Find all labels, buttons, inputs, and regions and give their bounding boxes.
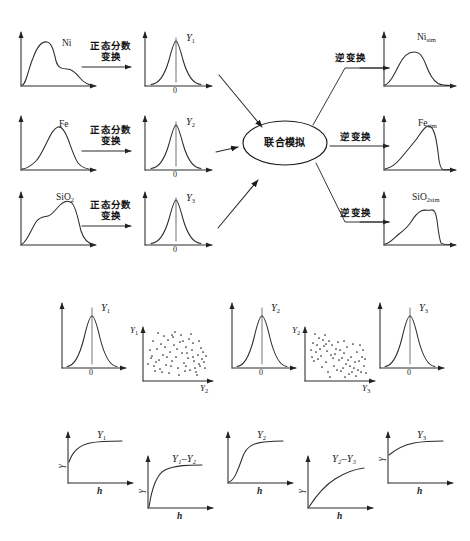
connector-node-to-inverse-1 (313, 68, 389, 125)
vario2-title-text: Y₁–Y₂ (172, 453, 196, 464)
vario2-title: Y₁–Y₂ (172, 453, 196, 464)
vario3-title: Y2 (257, 429, 266, 441)
origin-label-y2: 0 (173, 170, 177, 179)
mid-origin-y2: 0 (259, 368, 263, 377)
vario1-xlabel: h (97, 486, 102, 496)
scatter2-xlabel: Y3 (362, 383, 370, 394)
vario5-title-sub: 3 (423, 434, 426, 441)
mid-y1-sub: 1 (107, 307, 110, 314)
vario3-title-sub: 2 (263, 434, 266, 441)
mid-origin-y3: 0 (407, 368, 411, 377)
scatter2-xlabel-sub: 3 (367, 387, 370, 394)
fe-sim-sub: sim (428, 122, 437, 129)
sio2-sim-main: SiO (412, 192, 427, 202)
plot-y2-gaussian (145, 116, 212, 170)
scatter1-xlabel: Y2 (200, 383, 208, 394)
scatter-points-y1-y2 (147, 331, 207, 376)
scatter2-ylabel-sub: 2 (297, 329, 300, 336)
vario3-xlabel: h (257, 486, 262, 496)
forward-transform-3-line2: 变换 (101, 210, 122, 221)
vario5-xlabel: h (417, 486, 422, 496)
forward-transform-3-line1: 正态分数 (90, 199, 132, 210)
label-inverse-transform-3: 逆变换 (336, 207, 376, 218)
joint-simulation-label: 联合模拟 (259, 137, 311, 148)
forward-transform-line1: 正态分数 (90, 40, 132, 51)
y1-sub: 1 (192, 37, 195, 44)
forward-transform-line2: 变换 (101, 51, 122, 62)
arrow-y3-to-node (218, 180, 258, 228)
label-forward-transform-2: 正态分数 变换 (84, 124, 138, 146)
arrow-y2-to-node (216, 147, 238, 152)
mid-hist-y1 (62, 303, 126, 368)
label-forward-transform-3: 正态分数 变换 (84, 199, 138, 221)
mid-hist-y3 (380, 303, 444, 368)
scatter1-ylabel-sub: 1 (135, 329, 138, 336)
forward-transform-2-line2: 变换 (101, 135, 122, 146)
vario4-title-text: Y₂–Y₃ (332, 453, 356, 464)
forward-transform-2-line1: 正态分数 (90, 124, 132, 135)
mid-y2-sub: 2 (277, 307, 280, 314)
origin-label-y1: 0 (173, 86, 177, 95)
vario5-title: Y3 (417, 429, 426, 441)
fe-sim-main: Fe (418, 118, 428, 128)
label-inverse-transform-2: 逆变换 (336, 131, 376, 142)
mid-scatter-y2-y3 (305, 327, 375, 381)
scatter-points-y2-y3 (310, 333, 367, 378)
mid-y3-sub: 3 (425, 307, 428, 314)
vario4-title: Y₂–Y₃ (332, 453, 356, 464)
label-sio2-sim: SiO2sim (412, 192, 439, 203)
mid-scatter-y1-y2 (143, 327, 213, 381)
ni-sim-main: Ni (417, 32, 427, 42)
label-sio2: SiO2 (56, 192, 74, 203)
mid-label-y1: Y1 (101, 302, 110, 314)
ni-sim-sub: sim (427, 36, 436, 43)
mid-label-y2: Y2 (271, 302, 280, 314)
origin-label-y3: 0 (173, 245, 177, 254)
label-fe-sim: Fesim (418, 118, 437, 129)
vario1-ylabel: γ (55, 455, 67, 473)
sio2-sim-sub: 2sim (427, 196, 440, 203)
label-inverse-transform-1: 逆变换 (331, 52, 371, 63)
figure-canvas: Ni 正态分数 变换 Y1 0 逆变换 Nisim Fe 正态分数 变换 Y2 … (0, 0, 470, 541)
scatter2-ylabel: Y2 (292, 325, 300, 336)
y3-sub: 3 (192, 197, 195, 204)
scatter1-xlabel-sub: 2 (205, 387, 208, 394)
mid-label-y3: Y3 (419, 302, 428, 314)
vario4-ylabel: γ (295, 480, 307, 498)
label-y2: Y2 (186, 116, 195, 128)
label-ni: Ni (62, 38, 72, 48)
arrow-y1-to-node (219, 75, 262, 127)
mid-origin-y1: 0 (89, 368, 93, 377)
sio2-sub: 2 (71, 196, 74, 203)
scatter1-ylabel: Y1 (130, 325, 138, 336)
sio2-main: SiO (56, 192, 71, 202)
label-fe: Fe (59, 119, 69, 129)
y2-sub: 2 (192, 121, 195, 128)
mid-hist-y2 (232, 303, 296, 368)
cropped-caption-strip (0, 0, 470, 9)
vario1-title-sub: 1 (103, 434, 106, 441)
label-ni-sim: Nisim (417, 32, 436, 43)
label-y3: Y3 (186, 192, 195, 204)
vario5-ylabel: γ (375, 448, 387, 466)
vario4-xlabel: h (337, 511, 342, 521)
label-forward-transform-1: 正态分数 变换 (84, 40, 138, 62)
diagram-vector-layer (0, 0, 470, 541)
vario2-ylabel: γ (135, 480, 147, 498)
plot-y3-gaussian (145, 192, 212, 245)
plot-y1-gaussian (145, 32, 212, 86)
vario2-xlabel: h (177, 511, 182, 521)
label-y1: Y1 (186, 32, 195, 44)
vario1-title: Y1 (97, 429, 106, 441)
